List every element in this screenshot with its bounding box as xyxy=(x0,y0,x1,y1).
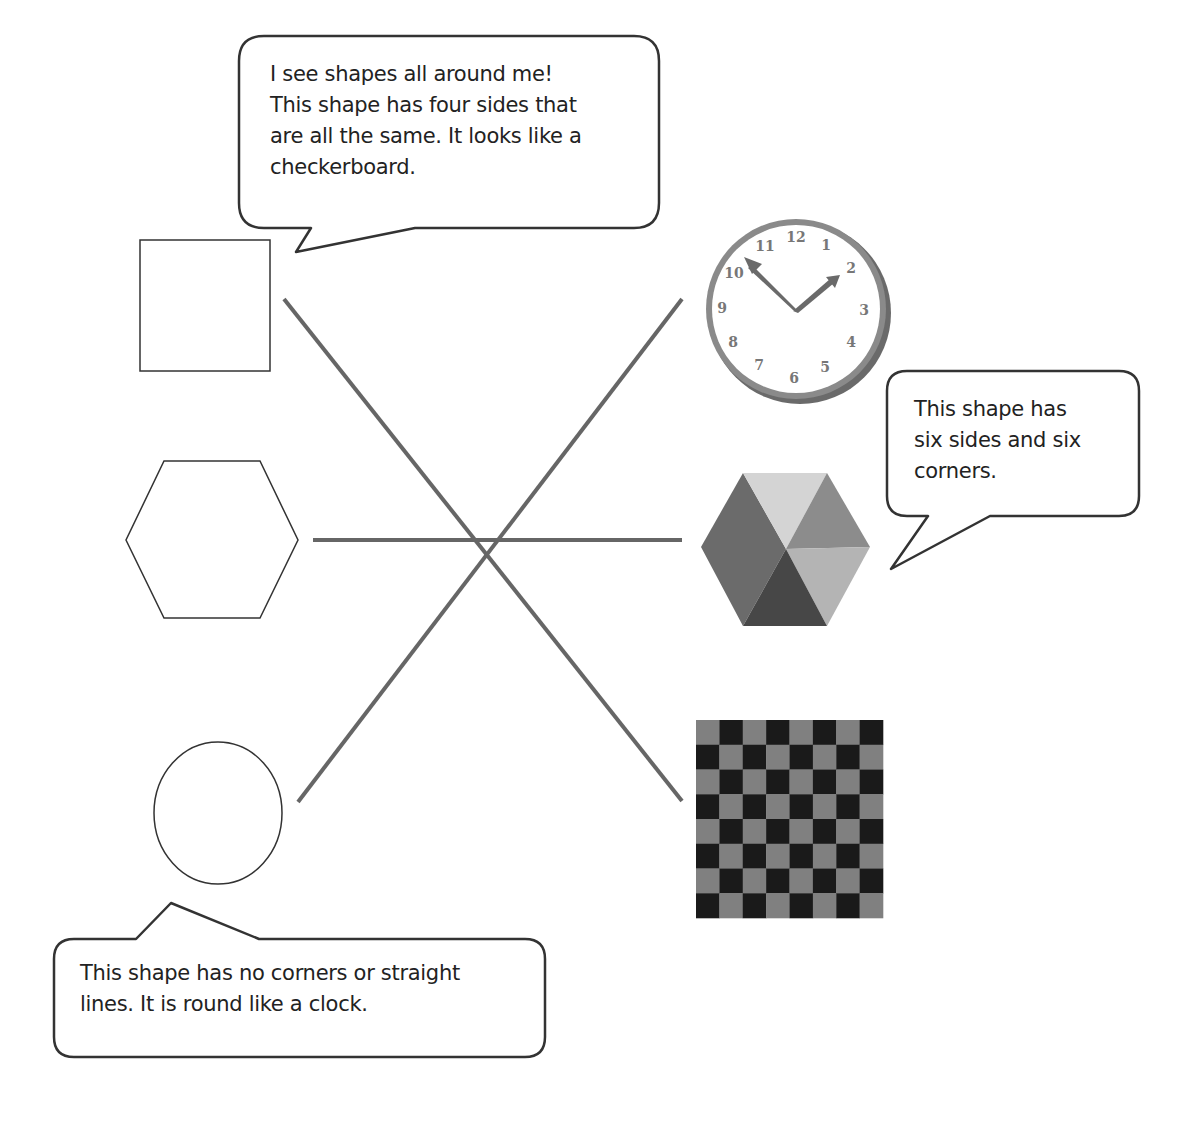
checker-square xyxy=(766,794,790,819)
clock-number-12: 12 xyxy=(786,229,805,245)
checker-square xyxy=(813,720,837,745)
clock-number-9: 9 xyxy=(717,300,727,316)
checker-square xyxy=(743,819,767,844)
checker-square xyxy=(836,794,860,819)
checker-square xyxy=(719,794,743,819)
checker-square xyxy=(696,869,720,894)
checker-square xyxy=(743,844,767,869)
checker-square xyxy=(766,819,790,844)
checker-square xyxy=(719,869,743,894)
checker-square xyxy=(696,794,720,819)
checker-square xyxy=(696,893,720,918)
checker-square xyxy=(813,770,837,795)
checker-square xyxy=(790,869,814,894)
checker-square xyxy=(836,720,860,745)
clock-number-5: 5 xyxy=(820,359,830,375)
checker-square xyxy=(719,745,743,770)
clock-number-6: 6 xyxy=(789,370,799,386)
clock-number-2: 2 xyxy=(846,260,856,276)
checker-square xyxy=(860,844,884,869)
checker-square xyxy=(860,770,884,795)
clock-number-10: 10 xyxy=(724,265,744,281)
checker-square xyxy=(790,794,814,819)
checker-square xyxy=(743,893,767,918)
checker-square xyxy=(790,844,814,869)
checker-square xyxy=(719,844,743,869)
speech-bubble-square-text: I see shapes all around me! This shape h… xyxy=(270,59,650,183)
checker-square xyxy=(766,869,790,894)
speech-bubble-circle-text: This shape has no corners or straight li… xyxy=(80,958,540,1020)
checker-square xyxy=(860,869,884,894)
checker-square xyxy=(836,893,860,918)
checker-square xyxy=(696,745,720,770)
clock-number-3: 3 xyxy=(859,302,869,318)
checker-square xyxy=(813,844,837,869)
checker-square xyxy=(743,745,767,770)
checker-square xyxy=(790,745,814,770)
checker-square xyxy=(696,770,720,795)
checkerboard-image xyxy=(696,720,883,918)
checker-square xyxy=(860,794,884,819)
checker-square xyxy=(719,819,743,844)
checker-square xyxy=(790,893,814,918)
checker-square xyxy=(813,794,837,819)
checker-square xyxy=(766,844,790,869)
checker-square xyxy=(719,720,743,745)
checker-square xyxy=(743,869,767,894)
checker-square xyxy=(860,745,884,770)
checker-square xyxy=(860,720,884,745)
checker-square xyxy=(696,819,720,844)
checker-square xyxy=(836,770,860,795)
checker-square xyxy=(836,844,860,869)
checker-square xyxy=(836,819,860,844)
checker-square xyxy=(836,745,860,770)
checker-square xyxy=(790,720,814,745)
hexagon-shape xyxy=(126,461,298,618)
clock-number-8: 8 xyxy=(728,334,738,350)
checker-square xyxy=(836,869,860,894)
checker-square xyxy=(860,819,884,844)
checker-square xyxy=(743,770,767,795)
checker-square xyxy=(790,819,814,844)
checker-square xyxy=(813,869,837,894)
clock-number-4: 4 xyxy=(846,334,856,350)
clock-image: 12 1 2 3 4 5 6 7 8 9 10 11 xyxy=(706,219,891,404)
speech-bubble-hexagon-text: This shape has six sides and six corners… xyxy=(914,394,1134,487)
clock-number-11: 11 xyxy=(755,238,774,254)
checker-square xyxy=(743,794,767,819)
checker-square xyxy=(766,893,790,918)
checker-square xyxy=(719,893,743,918)
clock-number-7: 7 xyxy=(754,357,764,373)
checker-square xyxy=(766,745,790,770)
checker-square xyxy=(860,893,884,918)
colored-hexagon-image xyxy=(701,473,870,626)
checker-square xyxy=(813,893,837,918)
checker-square xyxy=(696,844,720,869)
checker-square xyxy=(696,720,720,745)
square-shape xyxy=(140,240,270,371)
checker-square xyxy=(813,745,837,770)
checker-square xyxy=(743,720,767,745)
checker-square xyxy=(813,819,837,844)
checker-square xyxy=(766,770,790,795)
clock-number-1: 1 xyxy=(821,237,831,253)
circle-shape xyxy=(154,742,282,884)
checker-square xyxy=(766,720,790,745)
checker-square xyxy=(719,770,743,795)
checker-square xyxy=(790,770,814,795)
